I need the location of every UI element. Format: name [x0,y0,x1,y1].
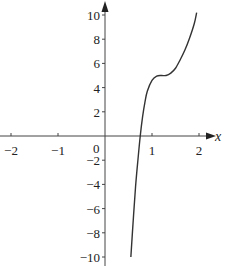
y-axis: −10−8−6−4−2246810 [80,1,109,266]
y-tick-label: 8 [94,32,101,47]
x-tick-label: −1 [51,143,65,158]
y-tick-label: 2 [94,105,101,120]
origin-label: 0 [93,141,100,156]
y-tick-label: −10 [80,250,100,265]
x-axis-label: x [214,129,222,144]
x-axis: x −2−112 [0,129,222,158]
y-axis-arrow-icon [102,1,109,12]
y-tick-label: −8 [86,226,100,241]
chart: x −2−112 −10−8−6−4−2246810 0 [0,0,225,268]
x-tick-label: 1 [149,143,156,158]
function-curve [131,13,197,257]
y-tick-label: 6 [94,56,101,71]
x-tick-label: −2 [4,143,18,158]
x-tick-label: 2 [196,143,203,158]
y-tick-label: 4 [94,81,101,96]
y-tick-label: 10 [87,8,100,23]
y-tick-label: −4 [86,177,100,192]
y-tick-label: −6 [86,202,100,217]
